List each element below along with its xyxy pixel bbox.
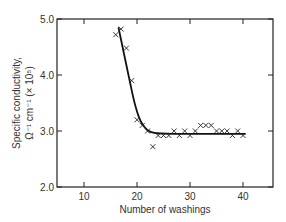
x-marker — [203, 123, 208, 128]
x-tick-label: 10 — [78, 191, 90, 202]
x-tick-label: 30 — [184, 191, 196, 202]
x-marker — [172, 129, 177, 134]
plot-frame — [57, 19, 273, 187]
x-marker — [235, 129, 240, 134]
x-marker — [124, 46, 129, 51]
y-tick-label: 4.0 — [40, 70, 54, 81]
x-marker — [198, 123, 203, 128]
x-marker — [135, 117, 140, 122]
y-axis-label-line2: Ω⁻¹ cm⁻¹ (× 10⁵) — [24, 66, 35, 140]
x-marker — [182, 129, 187, 134]
y-tick-labels: 2.03.04.05.0 — [40, 14, 54, 193]
x-axis-label: Number of washings — [119, 204, 210, 215]
x-marker — [225, 129, 230, 134]
x-marker — [193, 129, 198, 134]
x-marker — [150, 144, 155, 149]
x-tick-label: 40 — [237, 191, 249, 202]
data-points — [113, 27, 245, 150]
y-axis-label-line1: Specific conductivity, — [11, 57, 22, 149]
chart: 2.03.04.05.0 10203040 Number of washings… — [0, 0, 286, 222]
x-marker — [209, 123, 214, 128]
x-marker — [214, 129, 219, 134]
fitted-curve — [118, 27, 245, 133]
y-tick-label: 5.0 — [40, 14, 54, 25]
axis-ticks — [57, 19, 273, 187]
x-marker — [219, 129, 224, 134]
x-marker — [113, 32, 118, 37]
x-tick-label: 20 — [131, 191, 143, 202]
y-tick-label: 3.0 — [40, 126, 54, 137]
x-tick-labels: 10203040 — [78, 191, 249, 202]
y-tick-label: 2.0 — [40, 182, 54, 193]
